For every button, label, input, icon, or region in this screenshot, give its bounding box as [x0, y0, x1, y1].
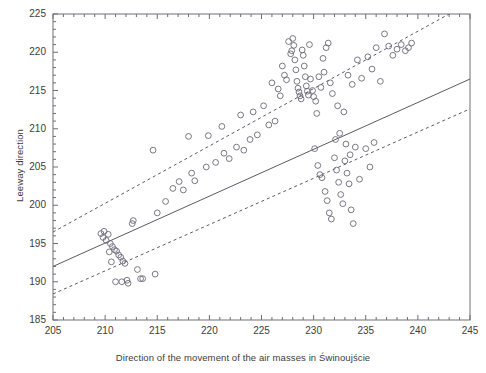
data-point — [108, 259, 114, 265]
data-point — [340, 201, 346, 207]
data-point — [318, 85, 324, 91]
data-point — [213, 160, 219, 166]
data-point — [135, 267, 141, 273]
data-point — [286, 39, 292, 45]
data-point — [338, 192, 344, 198]
x-axis-title: Direction of the movement of the air mas… — [0, 352, 486, 363]
data-point — [105, 231, 111, 237]
y-tick-label: 205 — [16, 161, 46, 172]
data-point — [254, 132, 260, 138]
lower-confidence-band — [53, 109, 470, 294]
data-point — [219, 124, 225, 130]
data-point — [308, 76, 314, 82]
data-point — [176, 179, 182, 185]
data-point — [301, 63, 307, 69]
data-point — [152, 271, 158, 277]
y-tick-label: 195 — [16, 238, 46, 249]
data-point — [277, 93, 283, 99]
data-point — [365, 54, 371, 60]
data-point — [335, 103, 341, 109]
data-point — [150, 147, 156, 153]
data-point — [315, 163, 321, 169]
data-point — [359, 75, 365, 81]
data-point — [409, 40, 415, 46]
x-tick-label: 220 — [189, 325, 229, 336]
data-point — [205, 133, 211, 139]
y-tick-label: 220 — [16, 46, 46, 57]
data-point — [226, 156, 232, 162]
y-tick-label: 210 — [16, 123, 46, 134]
data-point — [314, 111, 320, 117]
data-point — [291, 42, 297, 48]
x-tick-label: 215 — [137, 325, 177, 336]
data-point — [272, 118, 278, 124]
data-point — [316, 74, 322, 80]
data-point — [180, 187, 186, 193]
data-point — [322, 189, 328, 195]
data-point — [279, 63, 285, 69]
data-point — [336, 179, 342, 185]
data-point — [203, 164, 209, 170]
data-point — [294, 78, 300, 84]
data-point — [348, 207, 354, 213]
data-point — [321, 69, 327, 75]
data-point — [355, 57, 361, 63]
data-point — [367, 164, 373, 170]
data-point — [390, 52, 396, 58]
x-tick-label: 230 — [294, 325, 334, 336]
data-point — [299, 47, 305, 53]
y-tick-label: 225 — [16, 8, 46, 19]
x-tick-label: 235 — [346, 325, 386, 336]
data-point — [373, 45, 379, 51]
data-point — [328, 216, 334, 222]
x-tick-label: 240 — [398, 325, 438, 336]
data-point — [293, 67, 299, 73]
data-point — [345, 72, 351, 78]
x-tick-label: 225 — [242, 325, 282, 336]
data-point — [170, 186, 176, 192]
data-point — [342, 158, 348, 164]
data-point — [329, 91, 335, 97]
data-point — [398, 42, 404, 48]
data-point — [269, 80, 275, 86]
data-point — [371, 140, 377, 146]
data-point — [261, 103, 267, 109]
y-tick-label: 215 — [16, 85, 46, 96]
plot-frame — [53, 14, 470, 320]
data-point — [377, 78, 383, 84]
data-point — [275, 86, 281, 92]
plot-canvas — [0, 0, 486, 373]
x-tick-label: 210 — [85, 325, 125, 336]
data-point — [106, 249, 112, 255]
x-tick-label: 205 — [33, 325, 73, 336]
y-tick-label: 185 — [16, 314, 46, 325]
data-point — [250, 109, 256, 115]
data-point — [352, 144, 358, 150]
data-point — [350, 221, 356, 227]
data-point — [266, 122, 272, 128]
data-point — [346, 181, 352, 187]
data-point — [343, 141, 349, 147]
y-tick-label: 190 — [16, 276, 46, 287]
axis-ticks — [53, 14, 470, 320]
data-point — [290, 36, 296, 42]
data-point — [326, 210, 332, 216]
data-point — [295, 85, 301, 91]
data-point — [324, 198, 330, 204]
data-point — [357, 176, 363, 182]
data-point — [347, 152, 353, 158]
data-point — [363, 146, 369, 152]
upper-confidence-band — [53, 14, 449, 232]
x-tick-label: 245 — [450, 325, 486, 336]
data-point — [296, 89, 302, 95]
scatter-plot-figure: Leeway direction Direction of the moveme… — [0, 0, 486, 373]
data-point — [241, 147, 247, 153]
data-point — [341, 109, 347, 115]
data-points-layer — [98, 31, 414, 286]
data-point — [320, 55, 326, 61]
data-point — [300, 52, 306, 58]
y-tick-label: 200 — [16, 199, 46, 210]
data-point — [369, 66, 375, 72]
data-point — [303, 83, 309, 89]
data-point — [382, 31, 388, 37]
